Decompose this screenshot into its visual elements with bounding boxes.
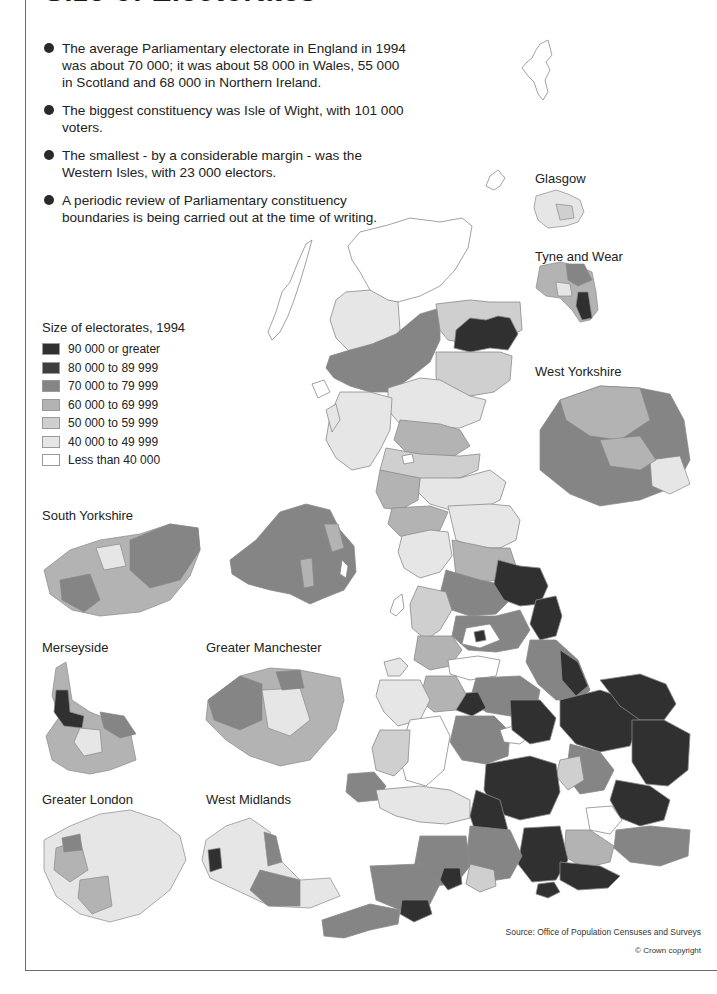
legend-swatch	[42, 436, 60, 448]
legend-swatch	[42, 399, 60, 411]
legend-swatch	[42, 417, 60, 429]
region-mull	[312, 380, 330, 398]
map-legend: Size of electorates, 1994 90 000 or grea…	[42, 320, 185, 470]
legend-item: 70 000 to 79 999	[42, 377, 185, 396]
legend-swatch	[42, 380, 60, 392]
region-anglesey	[384, 658, 408, 676]
legend-swatch	[42, 454, 60, 466]
inset-tyne-light	[556, 282, 572, 296]
inset-label-glasgow: Glasgow	[535, 171, 586, 186]
inset-label-greater-manchester: Greater Manchester	[206, 640, 322, 655]
inset-label-west-midlands: West Midlands	[206, 792, 291, 807]
uk-constituency-map	[0, 0, 717, 994]
region-west-mids	[450, 716, 510, 764]
region-surrey	[564, 830, 614, 868]
inset-label-tyne-and-wear: Tyne and Wear	[535, 249, 623, 264]
legend-item: 90 000 or greater	[42, 340, 185, 359]
legend-swatch	[42, 343, 60, 355]
scotland-north-outline	[348, 218, 472, 302]
legend-title: Size of electorates, 1994	[42, 320, 185, 335]
region-lancs-light	[410, 586, 452, 640]
shetland-outline	[522, 40, 552, 100]
orkney-outline	[486, 170, 505, 190]
legend-swatch	[42, 362, 60, 374]
region-glasgow-white	[402, 454, 414, 464]
western-isles	[268, 240, 312, 340]
region-suffolk-dark	[632, 720, 690, 786]
region-exeter-dark	[440, 868, 462, 890]
copyright-note: © Crown copyright	[635, 946, 701, 955]
legend-item: 80 000 to 89 999	[42, 359, 185, 378]
region-south-wales	[376, 786, 470, 824]
legend-item: Less than 40 000	[42, 451, 185, 470]
region-isle-of-man	[390, 594, 404, 616]
legend-item: 50 000 to 59 999	[42, 414, 185, 433]
inset-label-greater-london: Greater London	[42, 792, 133, 807]
inset-label-west-yorkshire: West Yorkshire	[535, 364, 621, 379]
inset-label-merseyside: Merseyside	[42, 640, 108, 655]
inset-wm-dark	[208, 848, 222, 872]
region-kent	[614, 826, 690, 866]
region-merseyside-dark	[474, 630, 486, 642]
inset-label-south-yorkshire: South Yorkshire	[42, 508, 133, 523]
region-plymouth-dark	[400, 900, 432, 922]
region-sussex-dark	[560, 862, 620, 890]
region-isle-of-wight	[536, 882, 560, 898]
region-northern-ireland	[230, 504, 356, 604]
region-cornwall	[322, 904, 400, 938]
legend-item: 60 000 to 69 999	[42, 396, 185, 415]
legend-item: 40 000 to 49 999	[42, 433, 185, 452]
source-note: Source: Office of Population Censuses an…	[506, 927, 701, 937]
region-cumbria	[398, 530, 452, 578]
